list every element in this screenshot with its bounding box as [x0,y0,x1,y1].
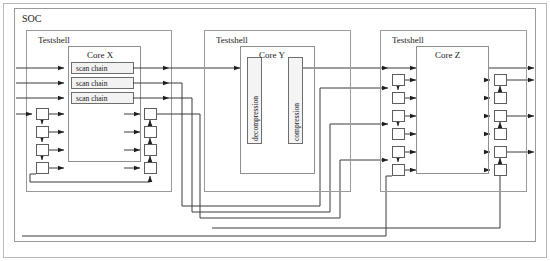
core-y-label: Core Y [259,50,285,60]
wrapper-cell [393,165,405,176]
wrapper-cell [37,127,49,138]
wire-bottom-return-2 [212,176,500,228]
wrapper-cell [37,109,49,120]
wrapper-cell [393,75,405,86]
wrapper-cell [495,111,507,122]
wrapper-cell [37,145,49,156]
testshell-y-label: Testshell [216,35,248,45]
wrapper-cell [145,163,157,174]
testshell-x-label: Testshell [38,35,70,45]
wire-feedback-x [30,174,150,182]
wrapper-cell [393,93,405,104]
wrapper-cell [145,127,157,138]
wrapper-cell [393,129,405,140]
soc-label: SOC [22,13,42,24]
compression-label: compression [292,103,301,141]
soc-boundary [15,9,536,242]
wrapper-cell [37,163,49,174]
wrapper-cell [495,75,507,86]
wrapper-cell [393,111,405,122]
core-z-label: Core Z [435,50,460,60]
wrapper-cell [495,147,507,158]
scan-chain-label: scan chain [76,79,108,88]
diagram-canvas: SOC Testshell Core X scan chain scan cha… [0,0,550,261]
core-z-boundary [417,47,489,174]
soc-block-diagram: SOC Testshell Core X scan chain scan cha… [0,0,550,261]
scan-chain-label: scan chain [76,64,108,73]
wrapper-cell [495,93,507,104]
testshell-z-label: Testshell [392,35,424,45]
wrapper-cell [495,129,507,140]
decompression-label: decompression [251,96,260,141]
wire-route-to-z-2 [330,124,388,212]
wrapper-cell [495,165,507,176]
wrapper-cell [145,145,157,156]
scan-chain-label: scan chain [76,94,108,103]
image-frame [4,4,547,258]
wrapper-cell [145,109,157,120]
core-x-label: Core X [87,50,114,60]
wrapper-cell [393,147,405,158]
